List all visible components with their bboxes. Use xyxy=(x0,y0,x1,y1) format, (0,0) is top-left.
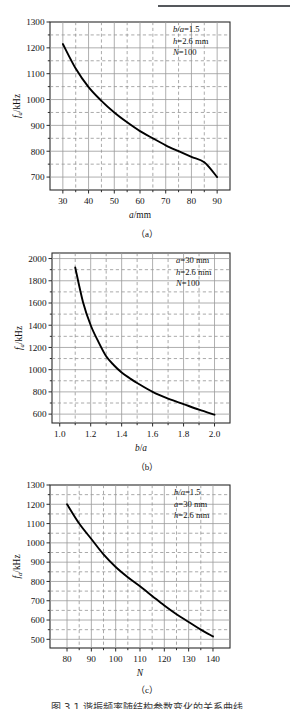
y-tick-label: 700 xyxy=(31,596,45,606)
subcaption-a: （a） xyxy=(136,229,158,239)
subcaption-c: （c） xyxy=(136,685,158,695)
x-axis-label: a/mm xyxy=(129,210,152,220)
x-tick-label: 30 xyxy=(58,196,68,206)
x-tick-label: 130 xyxy=(182,654,196,664)
y-tick-label: 1800 xyxy=(28,276,47,286)
annotation-line: a=30 mm xyxy=(174,499,208,509)
y-axis-label: fa/kHz xyxy=(12,94,23,118)
y-tick-label: 900 xyxy=(31,121,45,131)
annotation-line: h=2.6 mm xyxy=(173,36,209,46)
figure-panel-b: 6008001000120014001600180020001.01.21.41… xyxy=(0,245,294,477)
y-tick-label: 1300 xyxy=(26,17,45,27)
chart-c: 5006007008009001000110012001300809010011… xyxy=(0,477,294,699)
y-tick-label: 1300 xyxy=(26,480,45,490)
svg-text:fa/kHz: fa/kHz xyxy=(12,94,23,118)
svg-text:fa/kHz: fa/kHz xyxy=(12,554,23,578)
x-tick-label: 40 xyxy=(84,196,94,206)
annotation-line: a=30 mm xyxy=(176,255,210,265)
x-axis-label: N xyxy=(136,668,144,678)
y-tick-label: 800 xyxy=(33,387,47,397)
x-tick-label: 50 xyxy=(110,196,120,206)
chart-b: 6008001000120014001600180020001.01.21.41… xyxy=(0,245,294,477)
x-tick-label: 60 xyxy=(135,196,145,206)
y-axis-label: fa/kHz xyxy=(12,554,23,578)
subcaption-b: （b） xyxy=(136,462,159,472)
y-tick-label: 1000 xyxy=(28,365,47,375)
x-tick-label: 90 xyxy=(87,654,97,664)
x-tick-label: 1.4 xyxy=(116,429,128,439)
y-tick-label: 1000 xyxy=(26,95,45,105)
x-tick-label: 80 xyxy=(187,196,197,206)
x-tick-label: 120 xyxy=(157,654,171,664)
annotation-line: N=100 xyxy=(172,47,196,57)
y-tick-label: 600 xyxy=(33,409,47,419)
y-tick-label: 500 xyxy=(31,635,45,645)
chart-a: 700800900100011001200130030405060708090f… xyxy=(0,14,294,245)
x-tick-label: 1.0 xyxy=(54,429,66,439)
y-axis-label: fa/kHz xyxy=(14,326,25,350)
figure-panel-a: 700800900100011001200130030405060708090f… xyxy=(0,14,294,245)
y-tick-label: 2000 xyxy=(28,254,47,264)
y-tick-label: 700 xyxy=(31,172,45,182)
x-tick-label: 1.8 xyxy=(178,429,190,439)
plot-frame xyxy=(52,253,230,423)
y-tick-label: 1100 xyxy=(26,519,44,529)
x-axis-label: b/a xyxy=(135,443,147,453)
bottom-caption: 图 3.1 谐振频率随结构参数变化的关系曲线 xyxy=(0,699,294,709)
x-tick-label: 110 xyxy=(133,654,147,664)
y-tick-label: 900 xyxy=(31,557,45,567)
y-tick-label: 600 xyxy=(31,615,45,625)
top-horizontal-rule xyxy=(158,5,290,7)
y-tick-label: 800 xyxy=(31,577,45,587)
figure-page: 700800900100011001200130030405060708090f… xyxy=(0,0,294,709)
y-tick-label: 1200 xyxy=(28,343,47,353)
y-tick-label: 1100 xyxy=(26,69,44,79)
annotation-line: b/a=1.5 xyxy=(173,24,200,34)
annotation-line: N=100 xyxy=(175,278,199,288)
x-tick-label: 140 xyxy=(206,654,220,664)
x-tick-label: 100 xyxy=(109,654,123,664)
y-tick-label: 800 xyxy=(31,147,45,157)
x-tick-label: 70 xyxy=(161,196,171,206)
y-tick-label: 1000 xyxy=(26,538,45,548)
annotation-line: h=2.6 mm xyxy=(176,267,212,277)
svg-text:fa/kHz: fa/kHz xyxy=(14,326,25,350)
annotation-line: b/a=1.5 xyxy=(174,487,201,497)
figure-panel-c: 5006007008009001000110012001300809010011… xyxy=(0,477,294,699)
y-tick-label: 1200 xyxy=(26,43,45,53)
y-tick-label: 1400 xyxy=(28,321,47,331)
annotation-line: h=2.6 mm xyxy=(174,510,210,520)
x-tick-label: 2.0 xyxy=(209,429,221,439)
x-tick-label: 1.2 xyxy=(85,429,97,439)
y-tick-label: 1200 xyxy=(26,500,45,510)
x-tick-label: 80 xyxy=(62,654,72,664)
x-tick-label: 90 xyxy=(213,196,223,206)
y-tick-label: 1600 xyxy=(28,298,47,308)
x-tick-label: 1.6 xyxy=(147,429,159,439)
